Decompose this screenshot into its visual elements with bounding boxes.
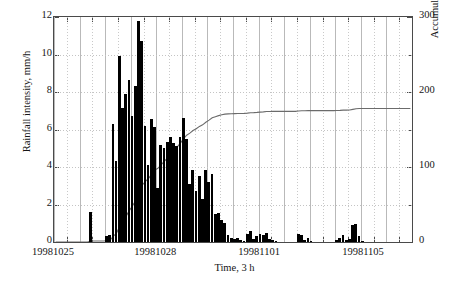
right-axis-tick-label: 0 bbox=[419, 235, 459, 245]
left-axis-tick-label: 2 bbox=[12, 198, 52, 208]
left-axis-tick-label: 0 bbox=[12, 235, 52, 245]
rainfall-chart-figure: 024681012 0100200300 1998102519981028199… bbox=[0, 0, 469, 284]
rainfall-bar bbox=[89, 212, 92, 242]
x-axis-tick-label: 19981101 bbox=[214, 246, 304, 257]
plot-area bbox=[53, 16, 413, 243]
x-axis-tick-label: 19981028 bbox=[110, 246, 200, 257]
x-axis-title: Time, 3 h bbox=[0, 262, 469, 273]
right-axis-tick-label: 200 bbox=[419, 85, 459, 95]
left-axis-tick bbox=[54, 242, 59, 243]
left-axis-tick-label: 4 bbox=[12, 160, 52, 170]
left-axis-tick-label: 10 bbox=[12, 48, 52, 58]
x-axis-tick-label: 19981025 bbox=[8, 246, 98, 257]
left-axis-tick-label: 12 bbox=[12, 10, 52, 20]
rainfall-bars-layer bbox=[54, 17, 412, 242]
right-axis-title: Accumulated rainfall, mm bbox=[429, 0, 440, 78]
x-axis-top-tick bbox=[412, 17, 413, 22]
rainfall-bar bbox=[361, 241, 364, 242]
left-axis-tick-label: 6 bbox=[12, 123, 52, 133]
left-axis-tick-label: 8 bbox=[12, 85, 52, 95]
x-axis-tick-label: 19981105 bbox=[318, 246, 408, 257]
vertical-gridline bbox=[412, 17, 413, 242]
x-axis-tick bbox=[412, 237, 413, 242]
rainfall-bar bbox=[310, 241, 313, 242]
right-axis-tick-label: 100 bbox=[419, 160, 459, 170]
left-axis-title: Rainfall intensity, mm/h bbox=[21, 7, 32, 197]
rainfall-bar bbox=[275, 241, 278, 242]
right-axis-tick bbox=[407, 242, 412, 243]
